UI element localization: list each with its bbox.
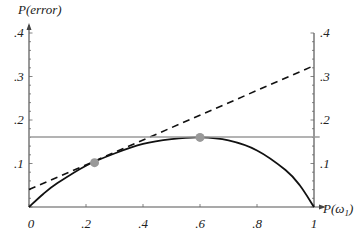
y-tick-label-right: .3 <box>320 69 330 84</box>
y-tick-label-right: .1 <box>320 156 330 171</box>
series-line <box>29 66 314 190</box>
y-axis-arrow-icon <box>27 23 32 30</box>
x-tick-label: .2 <box>81 216 91 231</box>
series-group <box>29 66 320 207</box>
x-tick-label: .8 <box>252 216 262 231</box>
y-tick-label-left: .4 <box>14 25 24 40</box>
y-tick-label-right: .4 <box>320 25 330 40</box>
x-tick-label: .6 <box>195 216 205 231</box>
tick-labels: 0.2.4.6.81.1.2.3.4.1.2.3.4 <box>14 25 330 231</box>
data-point-marker <box>196 133 205 142</box>
x-tick-label: 1 <box>311 216 318 231</box>
axes <box>27 23 327 210</box>
series-line <box>29 137 314 207</box>
x-tick-label: .4 <box>138 216 148 231</box>
chart: 0.2.4.6.81.1.2.3.4.1.2.3.4 P(error) P(ω1… <box>0 0 363 237</box>
y-tick-label-left: .2 <box>14 112 24 127</box>
y-tick-label-left: .3 <box>14 69 24 84</box>
y-tick-label-right: .2 <box>320 112 330 127</box>
x-tick-label: 0 <box>28 216 35 231</box>
y-axis-label: P(error) <box>17 2 62 17</box>
data-point-marker <box>90 158 99 167</box>
x-axis-label: P(ω1) <box>322 201 353 218</box>
y-tick-label-left: .1 <box>14 156 24 171</box>
